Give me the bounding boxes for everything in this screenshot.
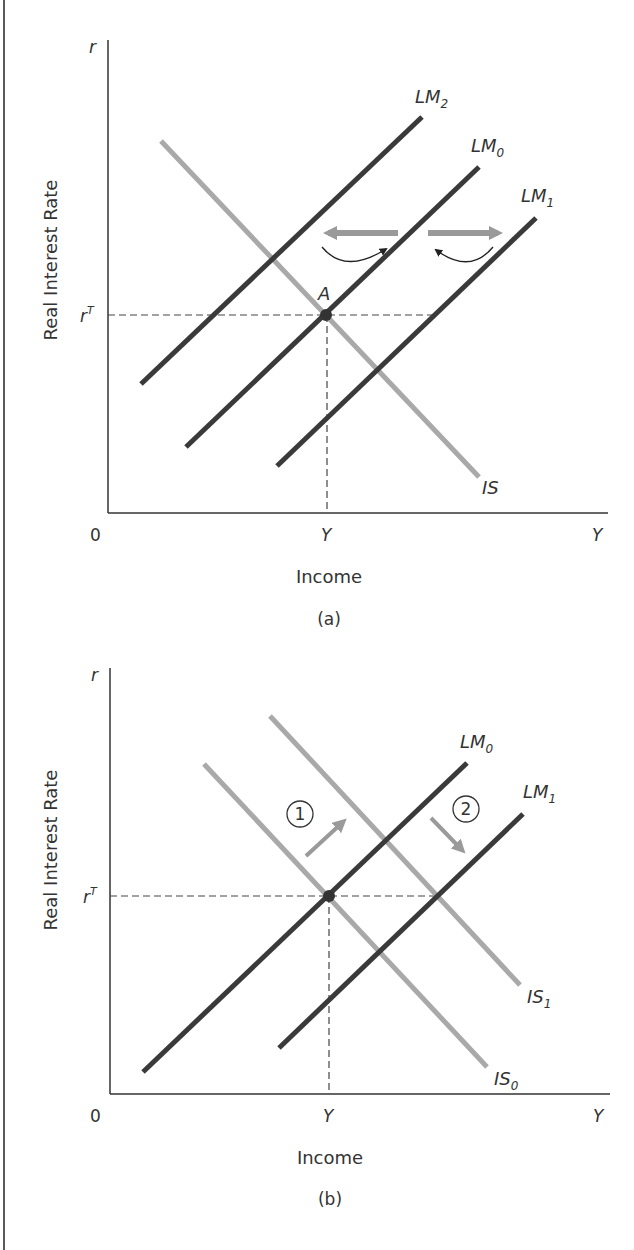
step-1-number: 1 <box>295 804 306 824</box>
lm1-curve <box>277 218 536 466</box>
y-axis-symbol: r <box>89 37 97 57</box>
y-potential-label: Y <box>323 1106 335 1126</box>
panel-a: r Real Interest Rate rT 0 Y Y Income (a)… <box>40 37 608 629</box>
lm1-label: LM1 <box>521 185 554 210</box>
y-axis-title: Real Interest Rate <box>40 180 61 341</box>
r-target-label: rT <box>83 885 98 907</box>
point-a-label: A <box>317 283 330 304</box>
x-axis-title: Income <box>297 1147 363 1168</box>
y-axis-title: Real Interest Rate <box>40 770 61 931</box>
panel-caption: (a) <box>317 609 341 629</box>
lm0-label: LM0 <box>460 731 494 756</box>
x-axis-end-label: Y <box>592 525 604 545</box>
lm2-curve <box>141 117 422 384</box>
y-axis-symbol: r <box>91 665 99 685</box>
lm2-label: LM2 <box>415 86 448 111</box>
step-2-number: 2 <box>461 799 472 819</box>
is1-label: IS1 <box>527 986 551 1011</box>
panel-caption: (b) <box>318 1189 342 1209</box>
origin-label: 0 <box>90 1106 101 1126</box>
curved-arrow-right <box>436 247 493 262</box>
is-lm-figure: r Real Interest Rate rT 0 Y Y Income (a)… <box>0 0 634 1250</box>
equilibrium-point <box>323 890 335 902</box>
y-potential-label: Y <box>321 525 333 545</box>
x-axis-end-label: Y <box>593 1106 605 1126</box>
is0-curve <box>204 764 487 1067</box>
equilibrium-point-a <box>320 309 332 321</box>
x-axis-title: Income <box>296 566 362 587</box>
is-label: IS <box>482 477 499 498</box>
step-1-arrow <box>306 822 343 856</box>
lm0-curve <box>186 167 479 447</box>
lm1-label: LM1 <box>523 781 556 806</box>
origin-label: 0 <box>90 525 101 545</box>
lm0-label: LM0 <box>471 135 505 160</box>
is0-label: IS0 <box>494 1068 519 1093</box>
step-2-arrow <box>431 818 462 850</box>
r-target-label: rT <box>80 304 95 326</box>
curved-arrow-left <box>322 247 386 262</box>
panel-b: 1 2 r Real Interest Rate rT 0 Y Y Income… <box>40 665 610 1209</box>
